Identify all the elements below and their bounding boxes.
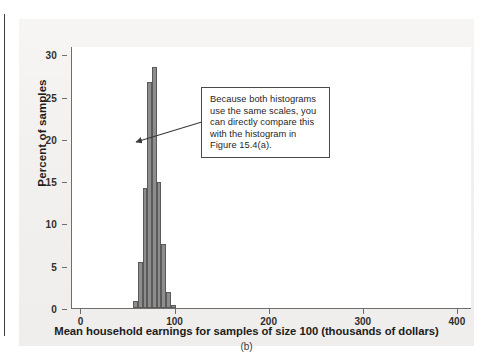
x-axis-tick (269, 309, 270, 314)
y-axis-tick-label: 30 (45, 50, 57, 61)
x-axis-tick (457, 309, 458, 314)
histogram-bar (171, 305, 176, 308)
y-axis-tick (62, 182, 67, 183)
figure-caption: (b) (19, 341, 474, 352)
y-axis-tick (62, 140, 67, 141)
x-axis-tick (363, 309, 364, 314)
annotation-line-1: use the same scales, you (210, 106, 322, 118)
y-axis-tick (62, 55, 67, 56)
x-axis-title: Mean household earnings for samples of s… (19, 325, 474, 337)
y-axis-tick-label: 0 (51, 304, 57, 315)
y-axis-tick (62, 309, 67, 310)
annotation-line-4: Figure 15.4(a). (210, 140, 322, 152)
y-axis-tick-label: 20 (45, 134, 57, 145)
annotation-line-2: can directly compare this (210, 117, 322, 129)
figure-root: Percent of samples 051015202530 01002003… (0, 0, 487, 361)
y-axis-tick-labels: 051015202530 (19, 47, 67, 309)
page-gutter-rule (4, 14, 5, 336)
y-axis-tick-label: 15 (45, 177, 57, 188)
y-axis-tick (62, 98, 67, 99)
annotation-line-0: Because both histograms (210, 94, 322, 106)
annotation-arrow-icon (129, 119, 207, 149)
y-axis-tick (62, 224, 67, 225)
y-axis-tick (62, 267, 67, 268)
histogram-figure: Percent of samples 051015202530 01002003… (19, 19, 474, 346)
y-axis-tick-label: 10 (45, 219, 57, 230)
y-axis-tick-label: 25 (45, 92, 57, 103)
x-axis-tick (80, 309, 81, 314)
annotation-line-3: with the histogram in (210, 129, 322, 141)
annotation-callout: Because both histograms use the same sca… (201, 87, 330, 158)
y-axis-tick-label: 5 (51, 261, 57, 272)
x-axis-tick (175, 309, 176, 314)
